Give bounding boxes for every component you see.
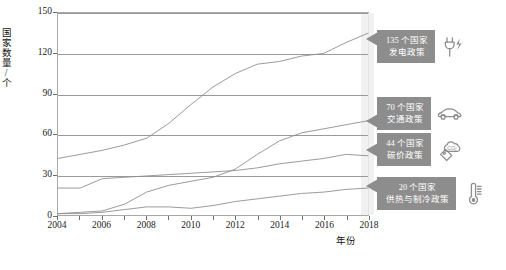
callout-heating-cooling-line1: 20 个国家 — [386, 182, 449, 194]
car-icon — [437, 101, 463, 127]
x-tick-label-2008: 2008 — [137, 220, 156, 230]
x-tick-label-2012: 2012 — [226, 220, 245, 230]
series-line-供热与制冷政策 — [58, 188, 368, 214]
callout-power-box: 135 个国家 发电政策 — [377, 30, 435, 63]
x-tick-mark-2017 — [347, 216, 348, 220]
y-tick-label-90: 90 — [30, 88, 52, 98]
series-lines — [58, 13, 368, 215]
callout-carbon-price-box: 44 个国家 碳价政策 — [377, 133, 431, 166]
callout-transport-box: 70 个国家 交通政策 — [377, 97, 431, 130]
x-tick-mark-2005 — [79, 216, 80, 220]
y-tick-label-30: 30 — [30, 169, 52, 179]
x-tick-label-2016: 2016 — [315, 220, 334, 230]
callout-transport-line1: 70 个国家 — [386, 102, 424, 114]
x-tick-mark-2015 — [302, 216, 303, 220]
callout-transport[interactable]: 70 个国家 交通政策 — [377, 97, 463, 130]
x-tick-label-2014: 2014 — [270, 220, 289, 230]
svg-text:2: 2 — [455, 147, 457, 151]
callout-power-line2: 发电政策 — [386, 47, 428, 59]
thermometer-icon — [462, 181, 488, 207]
y-tick-label-150: 150 — [30, 6, 52, 16]
callout-heating-cooling-tail — [366, 179, 378, 193]
x-tick-mark-2007 — [124, 216, 125, 220]
x-tick-label-2006: 2006 — [92, 220, 111, 230]
callout-power-tail — [366, 32, 378, 46]
callout-carbon-price-line2: 碳价政策 — [386, 150, 424, 162]
y-tick-label-120: 120 — [30, 47, 52, 57]
y-tick-label-0: 0 — [30, 210, 52, 220]
callout-transport-line2: 交通政策 — [386, 114, 424, 126]
y-axis-title: 国家数量/个 — [0, 28, 12, 88]
x-tick-label-2018: 2018 — [360, 220, 379, 230]
series-line-交通政策 — [58, 121, 368, 214]
series-line-碳价政策 — [58, 154, 368, 188]
y-tick-label-60: 60 — [30, 128, 52, 138]
callout-power[interactable]: 135 个国家 发电政策 — [377, 30, 467, 63]
x-tick-label-2010: 2010 — [181, 220, 200, 230]
x-axis-title: 年份 — [336, 233, 356, 247]
callout-heating-cooling-box: 20 个国家 供热与制冷政策 — [377, 177, 456, 210]
co2-tag-icon: CO 2 — [437, 137, 463, 163]
chart-screenshot: 国家数量/个 0306090120150 2004200620082010201… — [0, 0, 506, 270]
x-tick-label-2004: 2004 — [48, 220, 67, 230]
x-tick-mark-2011 — [213, 216, 214, 220]
callout-carbon-price-line1: 44 个国家 — [386, 138, 424, 150]
callout-heating-cooling-line2: 供热与制冷政策 — [386, 194, 449, 206]
x-tick-mark-2009 — [168, 216, 169, 220]
plug-lightning-icon — [441, 34, 467, 60]
callout-heating-cooling[interactable]: 20 个国家 供热与制冷政策 — [377, 177, 488, 210]
callout-carbon-price[interactable]: 44 个国家 碳价政策 CO 2 — [377, 133, 463, 166]
callout-carbon-price-tail — [366, 143, 378, 157]
callout-transport-tail — [366, 114, 378, 128]
series-line-发电政策 — [58, 33, 368, 158]
plot-area — [57, 12, 369, 216]
x-tick-mark-2013 — [258, 216, 259, 220]
callout-power-line1: 135 个国家 — [386, 35, 428, 47]
